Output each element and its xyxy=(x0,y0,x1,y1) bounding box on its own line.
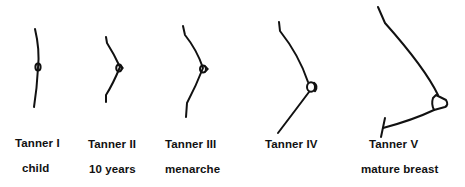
stage-3-profile-icon xyxy=(183,26,208,117)
stage-2-label: Tanner II xyxy=(88,139,136,151)
tanner-stages-diagram: Tanner I child Tanner II 10 years Tanner… xyxy=(0,0,465,187)
stage-2-description: 10 years xyxy=(89,164,136,176)
stage-4-label: Tanner IV xyxy=(265,139,317,151)
stage-3-description: menarche xyxy=(165,164,220,176)
stage-2-profile-icon xyxy=(106,37,123,102)
breast-profile-drawings xyxy=(0,0,465,187)
stage-1-description: child xyxy=(22,163,49,175)
stage-5-profile-icon xyxy=(378,7,447,137)
stage-4-profile-icon xyxy=(278,22,316,133)
stage-3-label: Tanner III xyxy=(165,139,216,151)
stage-5-label: Tanner V xyxy=(369,139,418,151)
stage-5-description: mature breast xyxy=(361,164,438,176)
stage-1-label: Tanner I xyxy=(15,138,60,150)
stage-1-profile-icon xyxy=(34,29,41,107)
